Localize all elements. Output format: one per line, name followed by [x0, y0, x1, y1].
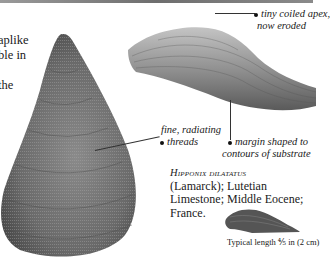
species-name: Hipponix dilatatus	[170, 166, 303, 180]
label-apex: tiny coiled apex,	[254, 8, 330, 20]
label-threads-line1: fine, radiating	[161, 124, 221, 136]
typical-length-label: Typical length ⅘ in (2 cm)	[227, 237, 319, 247]
leader-line-apex	[215, 13, 255, 14]
pointer-dot	[228, 141, 232, 145]
page-top-border	[0, 0, 313, 3]
label-threads: threads	[160, 136, 198, 148]
pointer-dot	[254, 13, 258, 17]
label-margin-line2: contours of substrate	[222, 148, 311, 160]
leader-line-margin	[230, 100, 231, 140]
label-apex-line2: now eroded	[257, 20, 306, 32]
caption-line: (Lamarck); Lutetian	[170, 180, 303, 194]
shell-scale-image	[222, 205, 302, 235]
shell-front-view-image	[0, 30, 140, 257]
pointer-dot	[160, 141, 164, 145]
label-margin: margin shaped to	[228, 136, 308, 148]
